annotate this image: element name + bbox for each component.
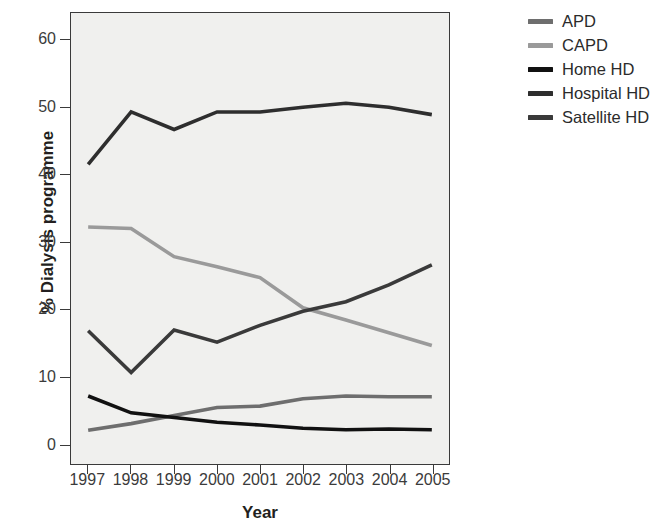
series-line-home-hd	[88, 396, 432, 430]
legend-label: CAPD	[562, 37, 608, 54]
x-tick-mark	[87, 465, 88, 474]
y-tick-mark	[60, 107, 70, 108]
legend-label: Satellite HD	[562, 109, 649, 126]
x-tick-mark	[433, 465, 434, 474]
plot-lines	[71, 13, 449, 464]
y-tick-label: 10	[14, 369, 56, 385]
series-line-satellite-hd	[88, 265, 432, 373]
plot-area	[70, 12, 450, 465]
legend-label: Home HD	[562, 61, 634, 78]
legend-item[interactable]: CAPD	[528, 33, 664, 57]
y-tick-label: 50	[14, 99, 56, 115]
y-tick-mark	[60, 39, 70, 40]
legend-item[interactable]: Home HD	[528, 57, 664, 81]
line-chart-figure: % Dialysis programme 0102030405060 19971…	[0, 0, 664, 530]
y-tick-mark	[60, 309, 70, 310]
x-axis-title: Year	[70, 503, 450, 523]
y-tick-mark	[60, 242, 70, 243]
y-tick-mark	[60, 377, 70, 378]
x-tick-mark	[390, 465, 391, 474]
x-tick-mark	[174, 465, 175, 474]
y-axis-tick-labels: 0102030405060	[0, 0, 56, 530]
y-tick-mark	[60, 174, 70, 175]
x-tick-mark	[303, 465, 304, 474]
x-tick-mark	[130, 465, 131, 474]
legend-label: APD	[562, 13, 596, 30]
legend-item[interactable]: Hospital HD	[528, 81, 664, 105]
x-tick-mark	[260, 465, 261, 474]
chart-legend: APDCAPDHome HDHospital HDSatellite HD	[528, 9, 664, 129]
y-tick-label: 20	[14, 301, 56, 317]
x-tick-mark	[217, 465, 218, 474]
legend-swatch-icon	[528, 19, 553, 24]
legend-swatch-icon	[528, 115, 553, 120]
y-tick-label: 40	[14, 166, 56, 182]
y-tick-label: 0	[14, 437, 56, 453]
legend-item[interactable]: Satellite HD	[528, 105, 664, 129]
y-tick-mark	[60, 445, 70, 446]
legend-item[interactable]: APD	[528, 9, 664, 33]
legend-label: Hospital HD	[562, 85, 650, 102]
legend-swatch-icon	[528, 67, 553, 72]
legend-swatch-icon	[528, 43, 553, 48]
series-line-hospital-hd	[88, 103, 432, 164]
legend-swatch-icon	[528, 91, 553, 96]
x-tick-label: 2005	[403, 472, 463, 488]
y-tick-label: 60	[14, 31, 56, 47]
series-line-capd	[88, 227, 432, 345]
y-tick-label: 30	[14, 234, 56, 250]
x-tick-mark	[346, 465, 347, 474]
